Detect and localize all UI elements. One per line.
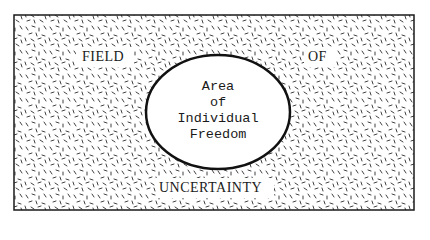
- label-field: FIELD: [82, 49, 124, 65]
- ellipse-line-3: Individual: [148, 111, 288, 127]
- ellipse-label: Area of Individual Freedom: [148, 79, 288, 143]
- ellipse-line-1: Area: [148, 79, 288, 95]
- ellipse-line-4: Freedom: [148, 127, 288, 143]
- label-uncertainty: UNCERTAINTY: [159, 180, 262, 196]
- ellipse-line-2: of: [148, 95, 288, 111]
- label-of: OF: [308, 49, 327, 65]
